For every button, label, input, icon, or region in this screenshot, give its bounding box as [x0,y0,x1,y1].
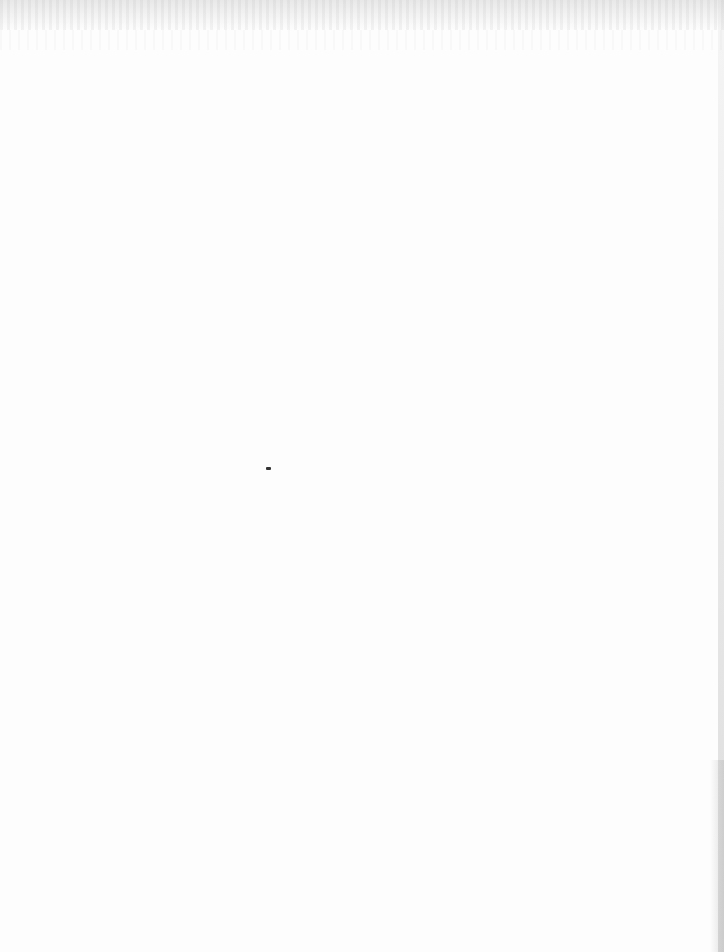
ink-speck [266,467,271,470]
bleed-through-faint [0,30,724,50]
bleed-through-band [0,0,724,30]
page-edge-shadow-bottom [710,760,724,952]
